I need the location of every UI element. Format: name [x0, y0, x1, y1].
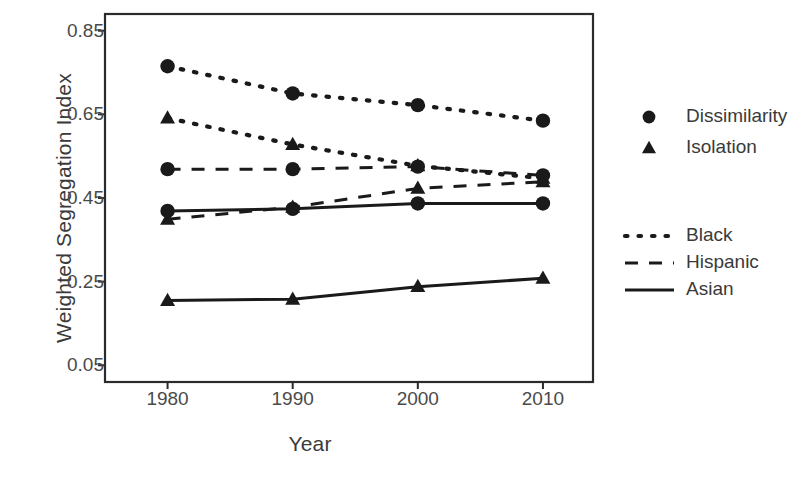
- data-point-circle: [160, 59, 174, 73]
- series-line: [168, 182, 543, 220]
- data-point-circle: [160, 162, 174, 176]
- legend-entry-label: Hispanic: [686, 251, 759, 273]
- data-point-circle: [536, 113, 550, 127]
- y-axis-tick-label: 0.65: [34, 103, 104, 125]
- legend-entry-label: Black: [686, 224, 732, 246]
- data-point-circle: [285, 162, 299, 176]
- y-axis-tick-label: 0.85: [34, 20, 104, 42]
- legend-entry-label: Isolation: [686, 136, 757, 158]
- legend-marker-circle: [643, 111, 656, 124]
- data-point-circle: [160, 204, 174, 218]
- series-line: [168, 278, 543, 300]
- data-point-triangle: [160, 110, 175, 123]
- y-axis-tick-label: 0.25: [34, 271, 104, 293]
- legend-entry-label: Dissimilarity: [686, 105, 787, 127]
- x-axis-title: Year: [0, 432, 620, 456]
- y-axis-tick-label: 0.45: [34, 187, 104, 209]
- segregation-index-line-chart: Weighted Segregation Index Year 0.050.25…: [0, 0, 798, 477]
- legend-marker-triangle: [642, 141, 656, 154]
- data-point-circle: [411, 159, 425, 173]
- x-axis-tick-label: 2010: [498, 388, 588, 410]
- data-point-triangle: [410, 181, 425, 194]
- data-point-circle: [536, 196, 550, 210]
- x-axis-tick-label: 1980: [123, 388, 213, 410]
- x-axis-tick-label: 1990: [248, 388, 338, 410]
- data-point-circle: [411, 196, 425, 210]
- series-line: [168, 66, 543, 120]
- y-axis-tick-label: 0.05: [34, 354, 104, 376]
- data-point-circle: [411, 98, 425, 112]
- plot-frame: [105, 14, 593, 382]
- data-point-triangle: [535, 270, 550, 283]
- legend-entry-label: Asian: [686, 278, 734, 300]
- x-axis-tick-label: 2000: [373, 388, 463, 410]
- data-point-circle: [285, 86, 299, 100]
- data-point-circle: [285, 202, 299, 216]
- series-line: [168, 203, 543, 211]
